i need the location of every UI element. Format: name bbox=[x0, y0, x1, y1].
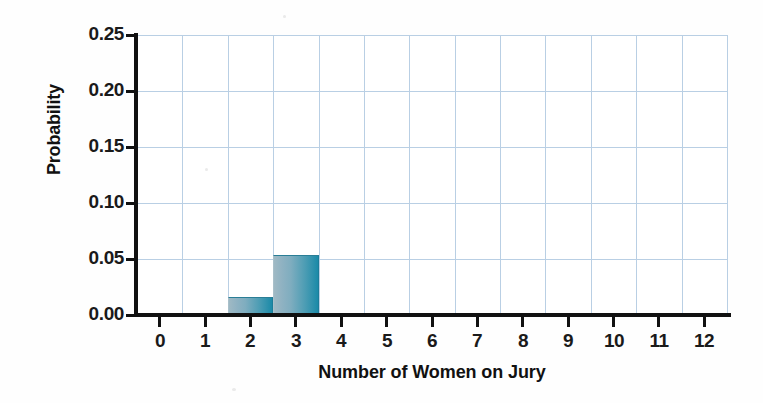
y-axis-tick bbox=[126, 90, 138, 93]
x-axis-tick-label: 9 bbox=[548, 330, 588, 352]
x-axis-tick-label: 4 bbox=[321, 330, 361, 352]
x-axis-tick bbox=[340, 315, 343, 327]
scan-speck bbox=[283, 15, 286, 18]
x-axis-tick bbox=[385, 315, 388, 327]
x-axis-tick-label: 5 bbox=[367, 330, 407, 352]
gridline-horizontal bbox=[137, 35, 727, 36]
y-axis-tick bbox=[126, 202, 138, 205]
x-axis-tick-label: 12 bbox=[684, 330, 724, 352]
gridline-vertical bbox=[500, 35, 501, 315]
scan-speck bbox=[104, 200, 107, 203]
x-axis-tick bbox=[158, 315, 161, 327]
gridline-vertical bbox=[545, 35, 546, 315]
gridline-vertical bbox=[228, 35, 229, 315]
x-axis-tick-label: 11 bbox=[639, 330, 679, 352]
x-axis-tick-label: 7 bbox=[457, 330, 497, 352]
gridline-vertical bbox=[682, 35, 683, 315]
x-axis-tick bbox=[521, 315, 524, 327]
y-axis-tick-label: 0.00 bbox=[56, 303, 124, 325]
x-axis-tick bbox=[567, 315, 570, 327]
x-axis-tick bbox=[431, 315, 434, 327]
gridline-vertical bbox=[455, 35, 456, 315]
gridline-horizontal bbox=[137, 147, 727, 148]
scan-speck bbox=[232, 388, 236, 391]
gridline-horizontal bbox=[137, 203, 727, 204]
y-axis-tick-label: 0.25 bbox=[56, 23, 124, 45]
gridline-vertical bbox=[591, 35, 592, 315]
x-axis-tick bbox=[294, 315, 297, 327]
x-axis-tick bbox=[476, 315, 479, 327]
y-axis-tick bbox=[126, 314, 138, 317]
gridline-horizontal bbox=[137, 259, 727, 260]
gridline-horizontal bbox=[137, 91, 727, 92]
plot-area bbox=[137, 35, 727, 315]
y-axis-tick-label: 0.20 bbox=[56, 79, 124, 101]
x-axis-tick-label: 2 bbox=[230, 330, 270, 352]
x-axis-tick-label: 6 bbox=[412, 330, 452, 352]
y-axis-line bbox=[134, 33, 138, 317]
x-axis-tick-label: 3 bbox=[276, 330, 316, 352]
y-axis-tick bbox=[126, 258, 138, 261]
x-axis-tick-label: 8 bbox=[503, 330, 543, 352]
x-axis-tick bbox=[657, 315, 660, 327]
scan-speck bbox=[205, 168, 208, 171]
y-axis-tick bbox=[126, 146, 138, 149]
y-axis-tick bbox=[126, 34, 138, 37]
x-axis-tick-label: 0 bbox=[140, 330, 180, 352]
x-axis-tick bbox=[612, 315, 615, 327]
gridline-vertical bbox=[319, 35, 320, 315]
chart-figure: 0.000.050.100.150.200.250123456789101112… bbox=[0, 0, 763, 403]
x-axis-tick bbox=[249, 315, 252, 327]
gridline-vertical bbox=[409, 35, 410, 315]
y-axis-tick-label: 0.10 bbox=[56, 191, 124, 213]
y-axis-tick-label: 0.05 bbox=[56, 247, 124, 269]
bar-3 bbox=[273, 255, 318, 315]
gridline-vertical bbox=[182, 35, 183, 315]
gridline-vertical bbox=[636, 35, 637, 315]
y-axis-tick-label: 0.15 bbox=[56, 135, 124, 157]
x-axis-tick-label: 10 bbox=[594, 330, 634, 352]
x-axis-tick bbox=[204, 315, 207, 327]
gridline-vertical bbox=[364, 35, 365, 315]
x-axis-title: Number of Women on Jury bbox=[137, 362, 727, 383]
x-axis-tick-label: 1 bbox=[185, 330, 225, 352]
x-axis-tick bbox=[703, 315, 706, 327]
gridline-vertical bbox=[727, 35, 728, 315]
y-axis-title: Probability bbox=[44, 84, 65, 175]
